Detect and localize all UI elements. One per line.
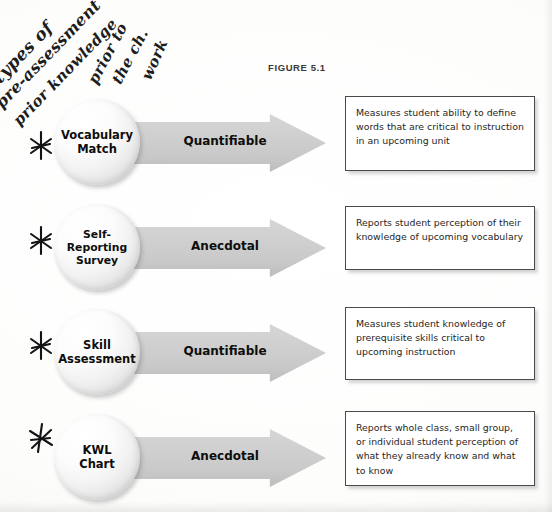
arrow-label: Anecdotal — [150, 239, 300, 253]
description-box: Measures student knowledge of prerequisi… — [345, 307, 535, 380]
star-mark-icon — [26, 128, 56, 164]
star-mark-icon — [26, 328, 56, 364]
arrow-label: Quantifiable — [150, 134, 300, 148]
diagram-row: Anecdotal Self-ReportingSurvey Reports s… — [0, 197, 552, 301]
assessment-bubble[interactable]: KWLChart — [54, 414, 140, 500]
bubble-label: SkillAssessment — [55, 338, 139, 366]
diagram-row: Quantifiable VocabularyMatch Measures st… — [0, 92, 552, 196]
assessment-bubble[interactable]: VocabularyMatch — [54, 99, 140, 185]
diagram-row: Anecdotal KWLChart Reports whole class, … — [0, 407, 552, 511]
figure-label: FIGURE 5.1 — [268, 62, 326, 73]
arrow-label: Anecdotal — [150, 449, 300, 463]
bubble-label: KWLChart — [76, 443, 118, 471]
description-box: Reports whole class, small group, or ind… — [345, 411, 535, 486]
star-mark-icon — [26, 421, 56, 457]
description-text: Reports student perception of their know… — [356, 216, 525, 244]
bubble-label: VocabularyMatch — [58, 128, 136, 156]
description-text: Measures student knowledge of prerequisi… — [356, 317, 525, 360]
bubble-label: Self-ReportingSurvey — [64, 228, 130, 267]
star-mark-icon — [26, 223, 56, 259]
diagram-row: Quantifiable SkillAssessment Measures st… — [0, 302, 552, 406]
description-box: Measures student ability to define words… — [345, 96, 535, 171]
arrow-label: Quantifiable — [150, 344, 300, 358]
description-text: Measures student ability to define words… — [356, 106, 525, 149]
description-text: Reports whole class, small group, or ind… — [356, 421, 525, 478]
description-box: Reports student perception of their know… — [345, 206, 535, 270]
assessment-bubble[interactable]: Self-ReportingSurvey — [54, 204, 140, 290]
assessment-bubble[interactable]: SkillAssessment — [54, 309, 140, 395]
